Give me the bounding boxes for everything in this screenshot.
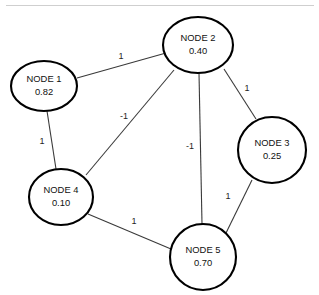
node-value: 0.10 [52,197,70,208]
graph-node[interactable]: NODE 40.10 [29,169,93,225]
node-value: 0.70 [194,257,212,268]
node-label: NODE 5 [186,244,221,255]
graph-node[interactable]: NODE 30.25 [238,117,306,183]
edge-weight-label: 1 [118,51,123,61]
edge-weight-label: 1 [131,216,136,226]
diagram-canvas: 111-1-111 NODE 10.82NODE 20.40NODE 30.25… [0,0,319,295]
node-label: NODE 1 [27,73,62,84]
graph-edge [199,73,202,224]
edge-weight-label: 1 [39,136,44,146]
edge-weight-label: 1 [225,191,230,201]
graph-edge [224,69,256,119]
graph-edge [86,70,174,175]
node-label: NODE 3 [255,137,290,148]
edge-weight-label: 1 [244,83,249,93]
node-value: 0.82 [35,86,53,97]
graph-edge [47,111,56,169]
node-label: NODE 4 [44,184,79,195]
graph-node[interactable]: NODE 20.40 [163,17,233,73]
graph-edge [88,214,171,249]
node-value: 0.25 [263,150,281,161]
graph-node[interactable]: NODE 50.70 [170,224,236,290]
graph-edge [226,180,252,233]
nodes-layer: NODE 10.82NODE 20.40NODE 30.25NODE 40.10… [11,17,306,290]
edge-weight-label: -1 [186,141,194,151]
node-value: 0.40 [189,45,207,56]
node-label: NODE 2 [181,32,216,43]
edge-weight-label: -1 [120,111,128,121]
graph-node[interactable]: NODE 10.82 [11,61,77,111]
node-graph: 111-1-111 NODE 10.82NODE 20.40NODE 30.25… [0,0,319,295]
